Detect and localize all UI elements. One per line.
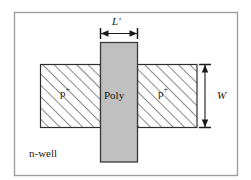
poly-gate-region	[101, 43, 138, 163]
length-dimension-prime: ′	[118, 15, 120, 27]
diffusion-label-left-superscript: +	[66, 85, 71, 94]
n-well-label: n-well	[29, 148, 57, 159]
length-dimension-label: L′	[112, 16, 121, 27]
diffusion-label-right-superscript: +	[164, 85, 169, 94]
poly-gate-label: Poly	[104, 90, 124, 101]
diffusion-label-right: p+	[158, 88, 168, 99]
diffusion-region-left	[41, 65, 101, 128]
width-dimension-label: W	[217, 90, 226, 101]
figure-container: p+ p+ Poly n-well L′ W	[0, 0, 251, 180]
diffusion-label-left: p+	[60, 88, 70, 99]
